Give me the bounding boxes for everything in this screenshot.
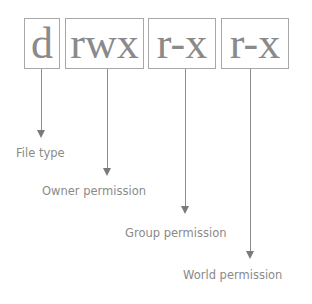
label-owner-permission: Owner permission: [42, 184, 146, 198]
segment-group: r-x: [148, 18, 216, 69]
arrow-down-icon: [37, 130, 45, 138]
connector-file-type: [41, 69, 42, 131]
segment-world: r-x: [221, 18, 289, 69]
connector-world: [250, 69, 251, 252]
arrow-down-icon: [103, 168, 111, 176]
segment-owner: rwx: [65, 18, 144, 69]
connector-group: [185, 69, 186, 207]
arrow-down-icon: [181, 206, 189, 214]
segment-file-type: d: [24, 18, 60, 69]
label-file-type: File type: [16, 146, 65, 160]
arrow-down-icon: [246, 251, 254, 259]
label-world-permission: World permission: [183, 268, 282, 282]
connector-owner: [107, 69, 108, 169]
label-group-permission: Group permission: [125, 226, 226, 240]
permission-diagram: d rwx r-x r-x File type Owner permission…: [0, 0, 312, 304]
